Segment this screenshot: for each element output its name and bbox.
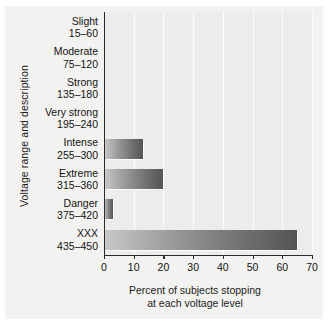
category-label-xxx: XXX 435–450 [16,225,102,255]
gridline-70 [312,12,313,255]
bar-row [104,103,312,133]
tick-label-60: 60 [269,261,295,273]
category-range: 135–180 [57,88,98,100]
figure-frame-bottom [0,319,328,324]
category-range: 15–60 [69,27,98,39]
tick-60 [282,255,283,259]
category-name: Slight [72,15,98,27]
plot-area [104,12,312,255]
x-axis-title-line2: at each voltage level [70,297,320,310]
category-name: Intense [64,136,98,148]
category-name: Danger [64,197,98,209]
bar-intense [104,139,143,159]
x-axis-title: Percent of subjects stopping at each vol… [70,284,320,310]
category-label-strong: Strong 135–180 [16,73,102,103]
bar-row [104,12,312,42]
tick-label-10: 10 [121,261,147,273]
category-label-danger: Danger 375–420 [16,194,102,224]
bar-row [104,134,312,164]
category-range: 315–360 [57,179,98,191]
tick-label-40: 40 [210,261,236,273]
tick-50 [253,255,254,259]
tick-40 [223,255,224,259]
tick-10 [134,255,135,259]
y-axis-line [104,12,105,255]
tick-label-20: 20 [150,261,176,273]
bar-row [104,194,312,224]
category-range: 195–240 [57,118,98,130]
category-name: Very strong [45,106,98,118]
tick-0 [104,255,105,259]
figure-frame-left [0,0,5,324]
category-name: Moderate [54,45,98,57]
bar-xxx [104,230,297,250]
tick-20 [163,255,164,259]
category-name: XXX [77,227,98,239]
bar-row [104,225,312,255]
tick-70 [312,255,313,259]
category-name: Extreme [59,167,98,179]
category-name: Strong [67,76,98,88]
bar-chart-figure: Voltage range and description Slight 15–… [0,0,328,324]
bar-series [104,12,312,255]
bar-extreme [104,169,163,189]
tick-label-0: 0 [91,261,117,273]
category-label-slight: Slight 15–60 [16,12,102,42]
category-range: 255–300 [57,149,98,161]
figure-frame-right [323,0,328,324]
bar-row [104,164,312,194]
figure-frame-top [0,0,328,6]
category-range: 435–450 [57,240,98,252]
x-axis-title-line1: Percent of subjects stopping [70,284,320,297]
tick-label-50: 50 [240,261,266,273]
tick-30 [193,255,194,259]
tick-label-70: 70 [299,261,325,273]
bar-row [104,42,312,72]
category-label-intense: Intense 255–300 [16,134,102,164]
category-range: 75–120 [63,58,98,70]
y-axis-category-labels: Slight 15–60 Moderate 75–120 Strong 135–… [16,12,102,255]
category-label-very-strong: Very strong 195–240 [16,103,102,133]
bar-row [104,73,312,103]
category-label-extreme: Extreme 315–360 [16,164,102,194]
category-label-moderate: Moderate 75–120 [16,42,102,72]
tick-label-30: 30 [180,261,206,273]
category-range: 375–420 [57,209,98,221]
